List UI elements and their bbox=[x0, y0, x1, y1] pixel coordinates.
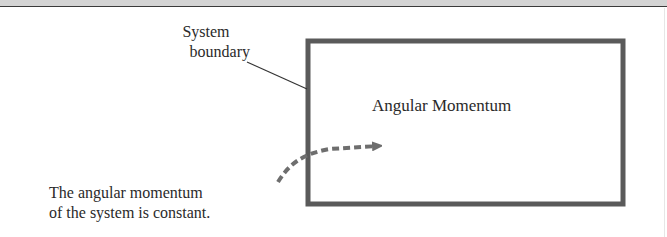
dashed-arrow bbox=[278, 146, 378, 182]
conservation-note-line1: The angular momentum bbox=[49, 183, 210, 203]
leader-line bbox=[247, 62, 307, 89]
conservation-note-line2: of the system is constant. bbox=[49, 203, 210, 223]
system-boundary-label-line2: boundary bbox=[150, 42, 250, 62]
system-boundary-box bbox=[308, 41, 623, 204]
angular-momentum-label: Angular Momentum bbox=[372, 96, 511, 116]
system-boundary-label-line1: System bbox=[150, 22, 250, 42]
conservation-note: The angular momentum of the system is co… bbox=[49, 183, 210, 223]
system-boundary-label: System boundary bbox=[150, 22, 250, 62]
